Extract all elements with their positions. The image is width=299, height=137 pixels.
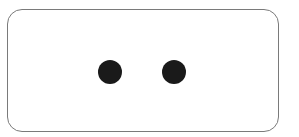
dot-left-icon	[98, 60, 122, 84]
dot-right-icon	[162, 60, 186, 84]
rounded-card	[7, 9, 279, 132]
